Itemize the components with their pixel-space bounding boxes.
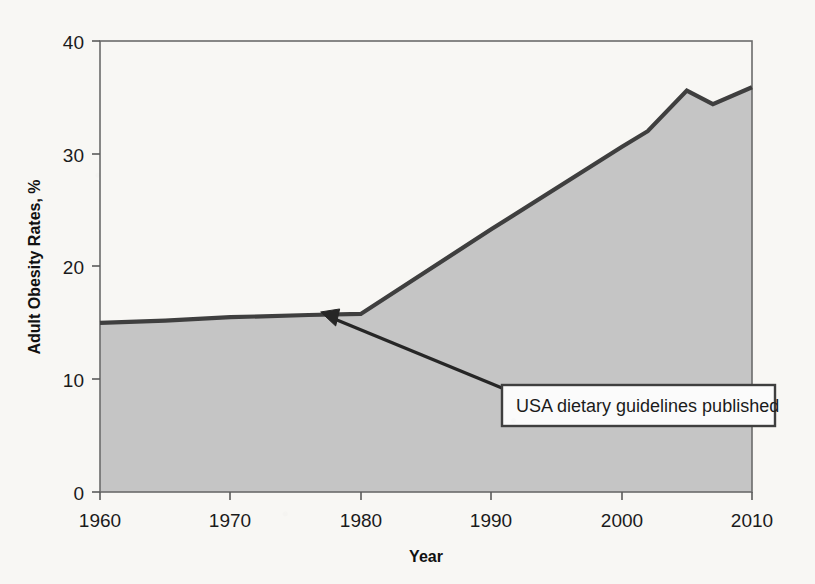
annotation-label: USA dietary guidelines published	[516, 396, 779, 416]
x-tick-label-2010: 2010	[731, 510, 773, 531]
area-fill	[100, 87, 752, 492]
chart-canvas: 40 30 20 10 0 1960 1970 1980 1990 2000 2…	[0, 0, 815, 584]
y-tick-label-30: 30	[63, 145, 84, 166]
x-tick-label-1990: 1990	[470, 510, 512, 531]
y-tick-label-20: 20	[63, 257, 84, 278]
y-tick-label-0: 0	[73, 483, 84, 504]
y-axis-title: Adult Obesity Rates, %	[26, 179, 43, 354]
y-axis-ticks	[92, 41, 100, 492]
x-axis-title: Year	[409, 548, 443, 565]
x-tick-label-1980: 1980	[340, 510, 382, 531]
x-tick-label-1960: 1960	[79, 510, 121, 531]
x-tick-label-2000: 2000	[601, 510, 643, 531]
x-tick-label-1970: 1970	[209, 510, 251, 531]
y-tick-label-40: 40	[63, 32, 84, 53]
y-tick-label-10: 10	[63, 370, 84, 391]
obesity-rate-area-chart: 40 30 20 10 0 1960 1970 1980 1990 2000 2…	[0, 0, 815, 584]
x-axis-ticks	[100, 492, 752, 500]
